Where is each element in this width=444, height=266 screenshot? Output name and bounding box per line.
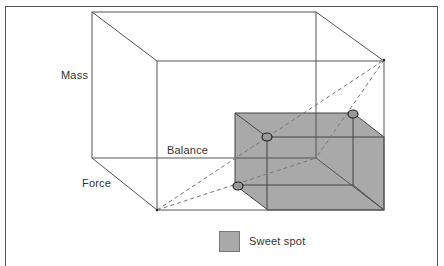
marker-top-right: [348, 110, 358, 118]
marker-bottom-left: [233, 182, 243, 190]
axis-label-mass: Mass: [61, 69, 88, 81]
legend-swatch-sweet-spot: [219, 231, 240, 252]
sweet-spot-box: [235, 113, 384, 210]
legend-label-sweet-spot: Sweet spot: [249, 235, 305, 247]
axis-label-force: Force: [82, 177, 111, 189]
marker-top-left: [262, 133, 272, 141]
axis-label-balance: Balance: [167, 144, 208, 156]
